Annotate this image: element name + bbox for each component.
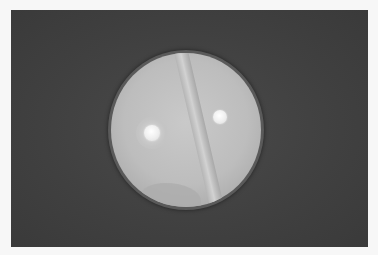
petri-dish (111, 53, 261, 207)
left-disc (144, 125, 160, 141)
right-disc (213, 110, 227, 124)
central-streak (173, 53, 226, 207)
agar-shadow (141, 183, 201, 207)
